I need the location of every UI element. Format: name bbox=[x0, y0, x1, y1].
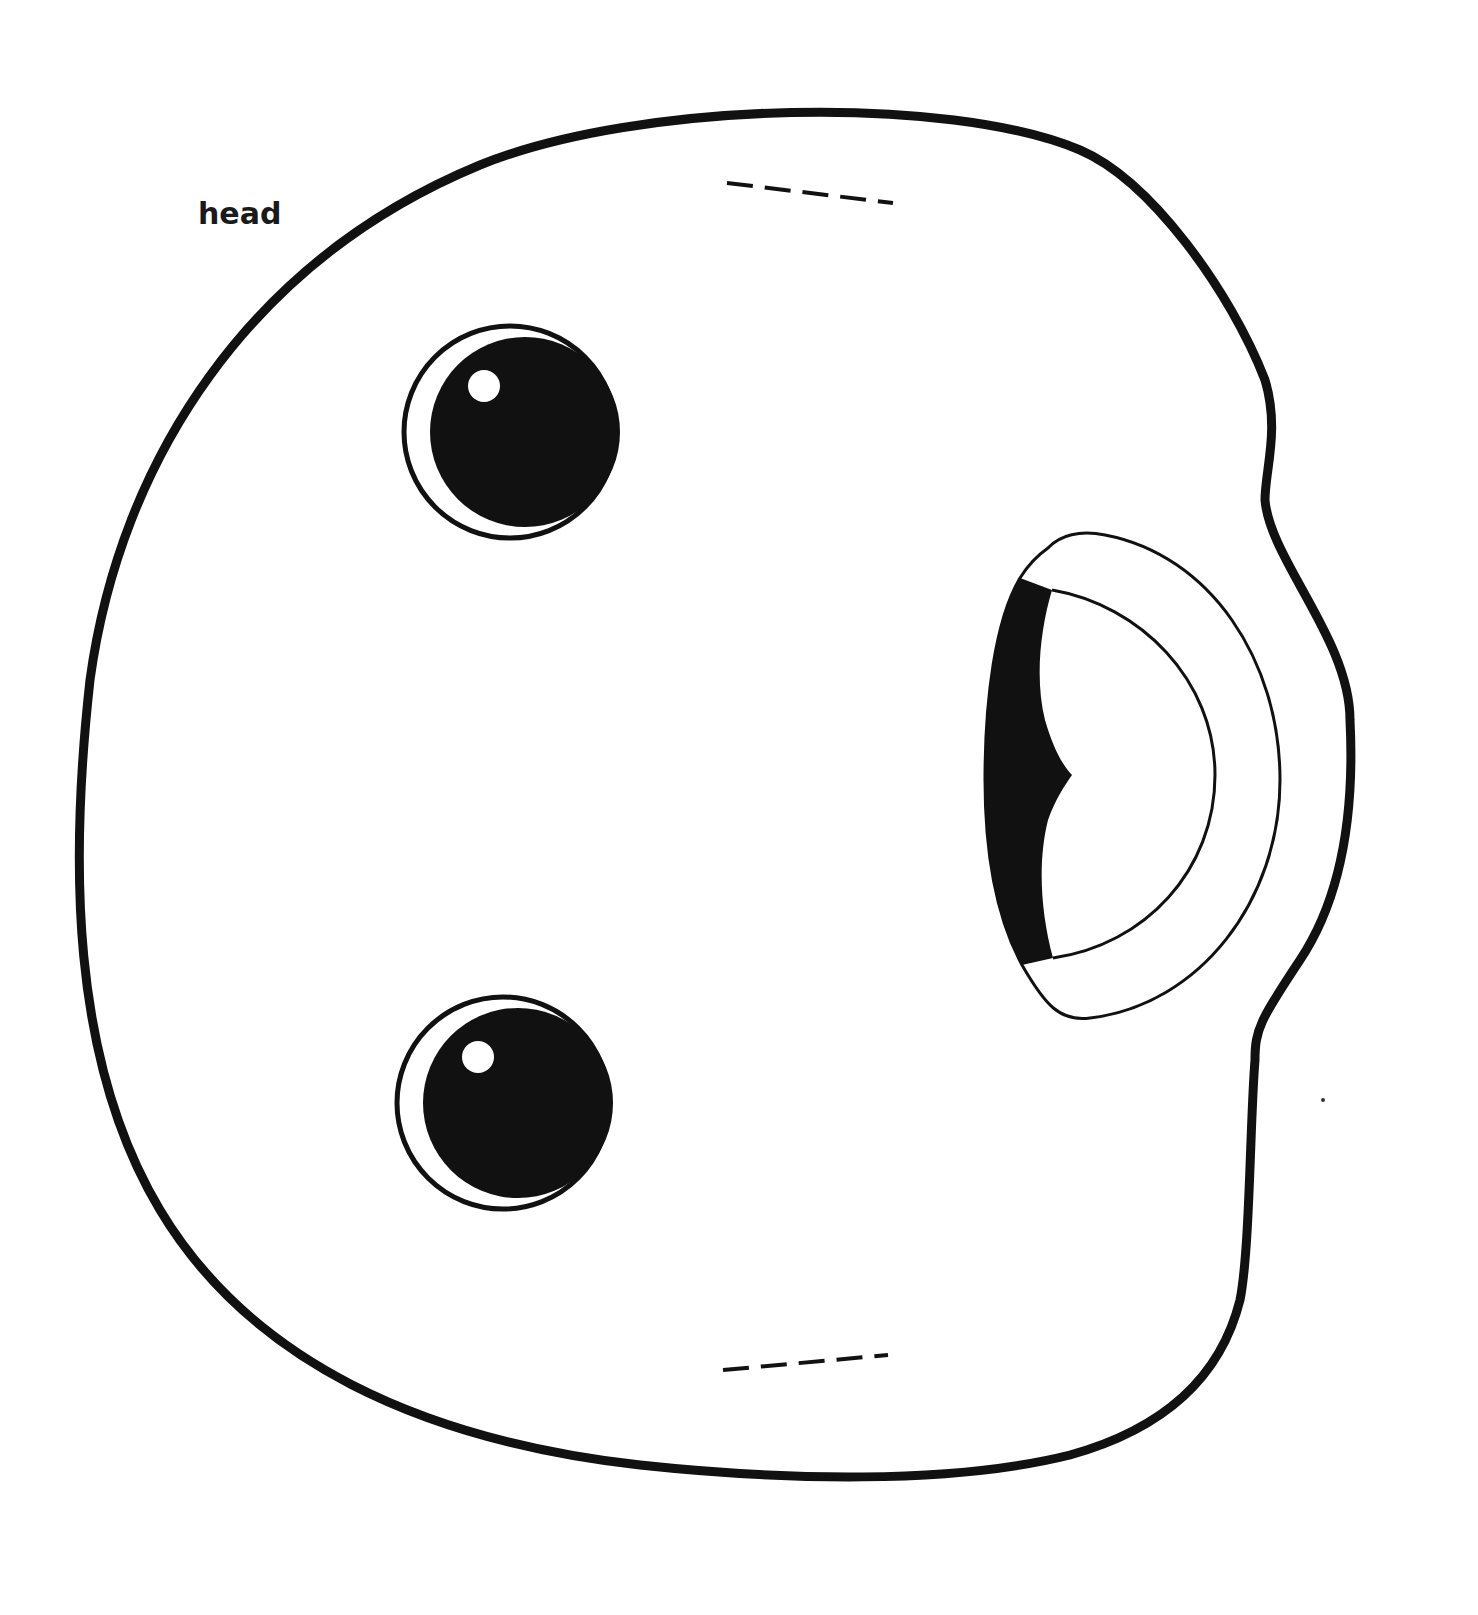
eye-bottom-icon bbox=[397, 997, 613, 1209]
speck bbox=[1321, 1098, 1325, 1102]
eye-top-icon bbox=[404, 326, 620, 538]
head-cutout-drawing bbox=[0, 0, 1478, 1615]
